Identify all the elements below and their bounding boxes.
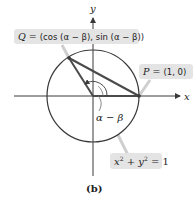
- x-axis-label: x: [184, 91, 190, 102]
- y-axis-label: y: [89, 3, 96, 14]
- figure-caption: (b): [86, 183, 102, 194]
- angle-leader-arc: [98, 86, 103, 96]
- chord-qp: [69, 58, 139, 96]
- p-leader-line: [139, 80, 150, 96]
- q-leader-line: [62, 45, 69, 58]
- q-label: Q = (cos (α − β), sin (α − β)): [18, 31, 144, 42]
- angle-label: α − β: [96, 112, 123, 123]
- point-p-dot: [137, 94, 141, 98]
- circle-eq-leader-line: [118, 135, 128, 155]
- angle-label-leader: [98, 96, 101, 111]
- p-label: P = (1, 0): [142, 66, 186, 77]
- point-q-dot: [67, 56, 71, 60]
- unit-circle-diagram: y x Q = (cos (α − β), sin (α − β)) P = (…: [0, 0, 196, 203]
